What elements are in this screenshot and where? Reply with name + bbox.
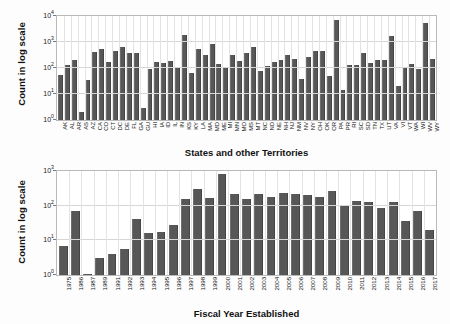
bar <box>120 249 129 275</box>
x-tick-label: 2010 <box>346 277 353 290</box>
gridline-vertical <box>71 16 72 120</box>
x-tick-label: GA <box>138 122 144 130</box>
plot-area-years <box>56 170 437 276</box>
bar <box>267 197 276 275</box>
gridline-vertical <box>422 16 423 120</box>
bar <box>127 53 132 120</box>
bar-series-states <box>57 16 436 120</box>
bar <box>361 53 366 121</box>
gridline-vertical <box>277 171 278 275</box>
y-axis-title-top: Count in log scale <box>16 16 27 112</box>
bar <box>86 80 91 120</box>
x-tick-label: 1992 <box>126 277 133 290</box>
x-tick-label: KY <box>193 122 199 130</box>
x-tick-label: WV <box>427 122 433 131</box>
y-axis-ticks-bottom: 100101102103 <box>26 170 54 276</box>
bar <box>401 221 410 275</box>
x-tick-label: AR <box>76 122 82 130</box>
bar <box>154 62 159 120</box>
bar <box>292 59 297 120</box>
gridline-vertical <box>209 16 210 120</box>
gridline-vertical <box>91 16 92 120</box>
bar <box>352 201 361 275</box>
x-tick-label: 1996 <box>175 277 182 290</box>
gridline-vertical <box>253 171 254 275</box>
gridline-vertical <box>429 16 430 120</box>
bar <box>95 258 104 275</box>
gridline-vertical <box>153 16 154 120</box>
x-tick-label: KS <box>186 122 192 130</box>
gridline-vertical <box>326 171 327 275</box>
x-tick-label: 2014 <box>395 277 402 290</box>
gridline-vertical <box>215 16 216 120</box>
x-tick-label: MA <box>207 122 213 131</box>
plot-area-states <box>56 15 437 121</box>
bar <box>99 49 104 120</box>
bar <box>79 112 84 120</box>
gridline-vertical <box>98 16 99 120</box>
x-tick-label: ME <box>221 122 227 131</box>
bar <box>315 197 324 275</box>
gridline-vertical <box>374 16 375 120</box>
bar <box>423 23 428 120</box>
x-tick-label: AK <box>62 122 68 130</box>
y-tick-label: 101 <box>28 90 54 97</box>
x-tick-label: NY <box>310 122 316 130</box>
bar <box>193 189 202 275</box>
gridline-vertical <box>346 16 347 120</box>
x-tick-label: RI <box>351 122 357 128</box>
gridline-vertical <box>94 171 95 275</box>
x-tick-label: FL <box>131 122 137 129</box>
x-tick-label: AL <box>69 122 75 129</box>
bar <box>382 60 387 120</box>
x-tick-label: MN <box>234 122 240 131</box>
bar <box>148 69 153 120</box>
gridline-vertical <box>69 171 70 275</box>
bar <box>244 53 249 120</box>
x-tick-label: VT <box>407 122 413 129</box>
x-tick-label: PA <box>338 122 344 129</box>
x-tick-label: MD <box>214 122 220 131</box>
x-tick-label: CO <box>103 122 109 131</box>
gridline-vertical <box>216 171 217 275</box>
gridline-vertical <box>179 171 180 275</box>
bar <box>368 63 373 120</box>
chart-panel-states: Count in log scale 100101102103104 AKALA… <box>0 2 450 162</box>
gridline-horizontal <box>57 170 436 171</box>
bar <box>203 55 208 120</box>
bar <box>313 51 318 120</box>
gridline-vertical <box>367 16 368 120</box>
x-axis-title-bottom: Fiscal Year Established <box>56 308 437 319</box>
x-tick-label: ND <box>269 122 275 130</box>
x-tick-label: 1989 <box>101 277 108 290</box>
x-tick-label: OK <box>324 122 330 130</box>
gridline-vertical <box>340 16 341 120</box>
x-tick-label: CA <box>97 122 103 130</box>
bar <box>334 20 339 120</box>
bar <box>205 198 214 275</box>
x-tick-label: 1995 <box>163 277 170 290</box>
x-tick-label: 2006 <box>297 277 304 290</box>
x-tick-label: 2015 <box>407 277 414 290</box>
x-tick-label: UT <box>386 122 392 130</box>
gridline-vertical <box>271 16 272 120</box>
x-tick-label: MT <box>255 122 261 130</box>
bar <box>83 274 92 275</box>
x-tick-label: 1999 <box>211 277 218 290</box>
x-tick-label: IN <box>179 122 185 128</box>
gridline-horizontal <box>57 67 436 68</box>
gridline-vertical <box>363 171 364 275</box>
bar <box>182 35 187 120</box>
gridline-vertical <box>319 16 320 120</box>
x-tick-label: 1994 <box>150 277 157 290</box>
x-tick-label: 1997 <box>187 277 194 290</box>
gridline-horizontal <box>57 205 436 206</box>
y-axis-ticks-top: 100101102103104 <box>26 15 54 121</box>
gridline-vertical <box>278 16 279 120</box>
x-tick-label: 2000 <box>224 277 231 290</box>
x-tick-label: 1975 <box>65 277 72 290</box>
gridline-vertical <box>284 16 285 120</box>
y-tick-label: 101 <box>28 236 54 243</box>
gridline-vertical <box>228 171 229 275</box>
gridline-vertical <box>143 171 144 275</box>
